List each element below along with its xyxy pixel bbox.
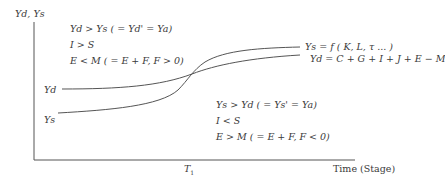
x-tick-subscript: 1 [190,169,194,176]
yd-start-label: Yd [44,84,56,95]
ys-start-label: Ys [44,114,55,125]
y-axis-label: Yd, Ys [15,8,45,19]
upper-left-line-3: E < M ( = E + F, F > 0) [70,55,184,66]
lower-right-line-2: I < S [216,115,240,126]
x-axis-label: Time (Stage) [333,163,395,174]
upper-left-line-2: I > S [70,39,94,50]
lower-right-line-3: E > M ( = E + F, F < 0) [216,131,330,142]
yd-end-label: Yd = C + G + I + J + E − M [310,53,445,64]
lower-right-line-1: Ys > Yd ( = Ys' = Ya) [216,99,317,110]
upper-left-line-1: Yd > Ys ( = Yd' = Ya) [70,23,172,34]
ys-end-label: Ys = f ( K, L, τ ... ) [305,41,393,52]
x-tick-t1: T1 [184,163,194,178]
